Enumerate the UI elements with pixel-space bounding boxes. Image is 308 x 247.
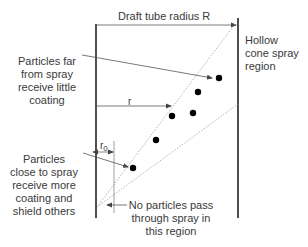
far-particles-label: Particles far from spray receive little … (14, 55, 80, 107)
spray-cone-inner-edge (97, 24, 235, 207)
far-particles-pointer (82, 55, 212, 78)
r0-subscript: 0 (103, 144, 107, 153)
far-label-line: receive little (14, 81, 80, 94)
close-label-line: coating and (6, 192, 82, 205)
close-label-line: Particles (6, 153, 82, 166)
draft-tube-radius-label: Draft tube radius R (118, 10, 210, 23)
no-particles-line: through spray in (128, 212, 214, 225)
spray-label-line: Hollow (245, 34, 299, 47)
r-label: r (128, 95, 131, 108)
close-label-line: receive more (6, 179, 82, 192)
close-label-line: close to spray (6, 166, 82, 179)
particle-dot (216, 75, 222, 81)
particles (130, 75, 222, 171)
far-label-line: from spray (14, 68, 80, 81)
particle-dot (153, 137, 159, 143)
particle-dot (169, 113, 175, 119)
hollow-cone-spray-label: Hollow cone spray region (245, 34, 299, 73)
spray-label-line: region (245, 60, 299, 73)
no-particles-line: this region (128, 225, 214, 238)
close-particles-pointer (83, 153, 128, 167)
spray-cone-outer-edge (97, 104, 238, 207)
far-label-line: Particles far (14, 55, 80, 68)
no-particles-line: No particles pass (128, 199, 214, 212)
spray-label-line: cone spray (245, 47, 299, 60)
close-particles-label: Particles close to spray receive more co… (6, 153, 82, 218)
close-label-line: shield others (6, 205, 82, 218)
r0-label: r0 (100, 139, 108, 155)
particle-dot (195, 89, 201, 95)
particle-dot (190, 110, 196, 116)
no-particles-label: No particles pass through spray in this … (128, 199, 214, 238)
far-label-line: coating (14, 94, 80, 107)
particle-dot (130, 165, 136, 171)
